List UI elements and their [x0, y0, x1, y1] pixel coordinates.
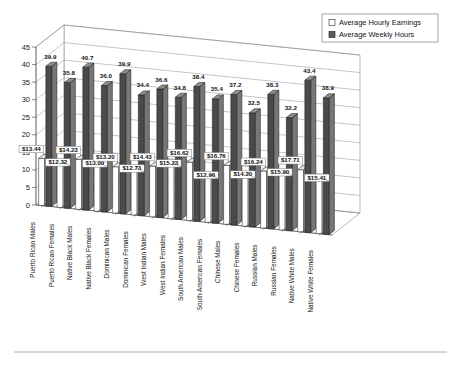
hours-value-label-11: 32.5	[248, 99, 261, 106]
bar-hours-3-side	[107, 82, 112, 212]
hours-value-label-0: 39.9	[44, 53, 57, 60]
hours-value-label-9: 35.4	[211, 85, 224, 92]
x-axis-category-label-8: South American Males	[177, 237, 184, 301]
y-axis-tick-label-30: 30	[22, 95, 30, 104]
bar-earnings-2-front	[76, 159, 82, 209]
bar-hours-3-front	[101, 86, 107, 212]
bar-hours-9-front	[212, 99, 218, 223]
hours-value-label-13: 32.2	[285, 104, 298, 111]
x-axis-category-label-3: Native Black Females	[85, 228, 92, 290]
bar-earnings-1-front	[57, 164, 63, 207]
x-axis-category-label-0: Puerto Rican Males	[29, 222, 36, 278]
bar-hours-12-front	[268, 94, 274, 228]
earnings-value-label-5: $12.73	[122, 164, 141, 171]
bar-hours-13-side	[292, 114, 297, 231]
bar-hours-4-front	[120, 74, 126, 214]
bar-earnings-8-front	[187, 162, 193, 220]
hours-value-label-6: 36.6	[155, 76, 168, 83]
x-axis-category-label-13: Russian Females	[270, 246, 277, 295]
bar-earnings-4-front	[113, 167, 119, 213]
chart-figure: 05101520253035404539.935.840.736.039.934…	[0, 0, 461, 369]
x-axis-category-label-6: West Indian Males	[140, 233, 147, 285]
hours-value-label-10: 37.2	[229, 81, 242, 88]
earnings-value-label-13: $15.90	[270, 168, 289, 175]
bar-hours-10-front	[231, 94, 237, 225]
y-axis-tick-label-35: 35	[22, 78, 30, 87]
bar-hours-11-side	[255, 109, 260, 227]
bar-earnings-9-front	[205, 177, 211, 223]
earnings-value-label-11: $14.20	[233, 170, 252, 177]
bar-hours-0-front	[46, 66, 52, 206]
hours-value-label-1: 35.8	[63, 69, 76, 76]
earnings-value-label-14: $17.71	[281, 156, 300, 163]
y-axis-tick-label-20: 20	[22, 130, 30, 139]
hours-value-label-14: 43.4	[303, 67, 316, 74]
bar-earnings-11-front	[242, 176, 248, 226]
hours-value-label-5: 34.4	[137, 81, 150, 88]
bar-earnings-13-front	[279, 174, 285, 230]
earnings-value-label-15: $15.41	[307, 174, 326, 181]
x-axis-category-label-10: Chinese Males	[214, 241, 221, 283]
x-axis-category-label-11: Chinese Females	[233, 243, 240, 293]
bar-hours-2-side	[89, 63, 94, 210]
x-axis-category-label-9: South American Females	[196, 239, 203, 310]
earnings-value-label-1: $12.32	[48, 158, 67, 165]
bar-hours-10-side	[237, 90, 242, 225]
legend-swatch-hours-icon	[329, 32, 335, 38]
bar-hours-2-front	[83, 67, 89, 210]
bar-hours-6-front	[157, 89, 163, 218]
earnings-value-label-7: $15.23	[159, 159, 178, 166]
bar-hours-14-side	[311, 76, 316, 232]
earnings-value-label-12: $16.24	[244, 158, 263, 165]
bar-earnings-15-front	[316, 180, 322, 234]
hours-value-label-4: 39.9	[118, 60, 131, 67]
bar-hours-8-side	[200, 82, 205, 221]
bar-earnings-7-front	[168, 165, 174, 218]
bar-hours-8-front	[194, 86, 200, 221]
bar-hours-0-side	[52, 62, 57, 206]
bar-earnings-6-front	[150, 166, 156, 217]
hours-value-label-2: 40.7	[81, 54, 94, 61]
bar-hours-14-front	[305, 80, 311, 232]
hours-value-label-7: 34.8	[174, 84, 187, 91]
bar-earnings-14-front	[298, 170, 304, 232]
bar-earnings-5-front	[131, 170, 137, 215]
hours-value-label-8: 38.4	[192, 73, 205, 80]
bar-earnings-0-front	[39, 158, 45, 205]
bar-earnings-12-front	[261, 171, 267, 228]
x-axis-category-label-12: Russian Males	[251, 244, 258, 286]
bar-chart-canvas: 05101520253035404539.935.840.736.039.934…	[0, 0, 461, 369]
x-axis-category-label-14: Native White Males	[288, 248, 295, 303]
legend-swatch-earnings-icon	[329, 20, 335, 26]
earnings-value-label-0: $13.44	[22, 145, 41, 152]
x-axis-category-label-2: Native Black Males	[66, 226, 73, 280]
earnings-value-label-6: $14.43	[133, 153, 152, 160]
bar-earnings-10-front	[224, 165, 230, 224]
earnings-value-label-8: $16.62	[170, 149, 189, 156]
earnings-value-label-2: $14.23	[59, 146, 78, 153]
x-axis-category-label-4: Dominican Males	[103, 229, 110, 278]
bar-hours-15-side	[329, 94, 334, 235]
x-axis-category-label-15: Native White Females	[307, 250, 314, 313]
y-axis-tick-label-10: 10	[22, 165, 30, 174]
hours-value-label-12: 38.3	[266, 81, 279, 88]
x-axis-category-label-1: Puerto Rican Females	[48, 224, 55, 287]
y-axis-tick-label-25: 25	[22, 113, 30, 122]
x-axis-category-label-5: Dominican Females	[122, 231, 129, 287]
y-axis-tick-label-5: 5	[26, 183, 30, 192]
bar-earnings-3-front	[94, 165, 100, 211]
y-axis-tick-label-45: 45	[22, 43, 30, 52]
legend-label-earnings: Average Hourly Earnings	[339, 18, 421, 27]
y-axis-tick-label-0: 0	[26, 201, 30, 210]
earnings-value-label-10: $16.76	[207, 152, 226, 159]
y-axis-tick-label-40: 40	[22, 60, 30, 69]
hours-value-label-15: 38.9	[322, 84, 335, 91]
bar-hours-15-front	[323, 98, 329, 235]
earnings-value-label-9: $12.96	[196, 171, 215, 178]
hours-value-label-3: 36.0	[100, 72, 113, 79]
bar-hours-1-side	[70, 78, 75, 208]
bar-hours-4-side	[126, 70, 131, 214]
legend-label-hours: Average Weekly Hours	[339, 30, 415, 39]
x-axis-category-label-7: West Indian Females	[159, 235, 166, 295]
earnings-value-label-4: $13.20	[96, 153, 115, 160]
